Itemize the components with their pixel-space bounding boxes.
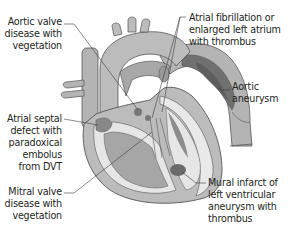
label-line: paradoxical bbox=[7, 137, 62, 149]
label-aortic-aneurysm: Aortic aneurysm bbox=[232, 81, 278, 105]
label-line: from DVT bbox=[7, 161, 62, 173]
label-line: embolus bbox=[7, 149, 62, 161]
label-line: Aortic valve bbox=[5, 16, 62, 28]
label-line: disease with bbox=[5, 28, 62, 40]
label-line: Mitral valve bbox=[5, 186, 62, 198]
label-mural-infarct: Mural infarct of left ventricular aneury… bbox=[208, 177, 278, 225]
vena-cava bbox=[61, 48, 98, 128]
label-line: thrombus bbox=[208, 213, 278, 225]
label-aortic-valve-disease: Aortic valve disease with vegetation bbox=[5, 16, 62, 52]
label-line: vegetation bbox=[5, 210, 62, 222]
label-line: disease with bbox=[5, 198, 62, 210]
label-line: left ventricular bbox=[208, 189, 278, 201]
label-line: defect with bbox=[7, 125, 62, 137]
label-line: aneurysm bbox=[232, 93, 278, 105]
label-line: Atrial fibrillation or bbox=[189, 12, 281, 24]
label-line: Aortic bbox=[232, 81, 278, 93]
label-line: Atrial septal bbox=[7, 113, 62, 125]
label-line: enlarged left atrium bbox=[189, 24, 281, 36]
label-mitral-valve-disease: Mitral valve disease with vegetation bbox=[5, 186, 62, 222]
label-line: Mural infarct of bbox=[208, 177, 278, 189]
label-line: aneurysm with bbox=[208, 201, 278, 213]
label-line: with thrombus bbox=[189, 36, 281, 48]
label-line: vegetation bbox=[5, 40, 62, 52]
label-atrial-fibrillation: Atrial fibrillation or enlarged left atr… bbox=[189, 12, 281, 48]
label-atrial-septal-defect: Atrial septal defect with paradoxical em… bbox=[7, 113, 62, 173]
